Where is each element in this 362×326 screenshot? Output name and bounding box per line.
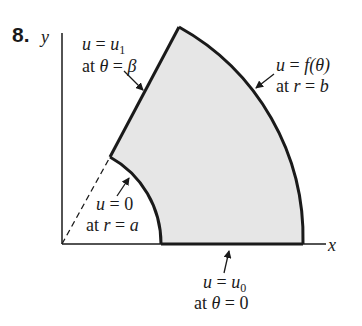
annular-sector-region — [110, 27, 303, 244]
label-theta-zero-line2: at θ = 0 — [194, 293, 249, 313]
y-axis-label: y — [39, 27, 49, 47]
label-r-a-line1: u = 0 — [96, 194, 133, 214]
label-theta-beta-line1: u = u1 — [82, 34, 125, 57]
annular-sector-diagram: 8. y x u = u1 at θ = β u = f(θ) at r = b… — [0, 0, 362, 326]
x-axis-label: x — [327, 235, 336, 255]
label-r-a-line2: at r = a — [86, 215, 139, 235]
arrow-bottom — [224, 251, 229, 273]
problem-number: 8. — [12, 23, 30, 46]
label-theta-beta-line2: at θ = β — [82, 56, 137, 76]
label-r-b-line2: at r = b — [276, 76, 329, 96]
arrow-top-right — [256, 74, 274, 88]
label-r-b-line1: u = f(θ) — [276, 55, 330, 76]
label-theta-zero-line1: u = u0 — [203, 272, 246, 295]
